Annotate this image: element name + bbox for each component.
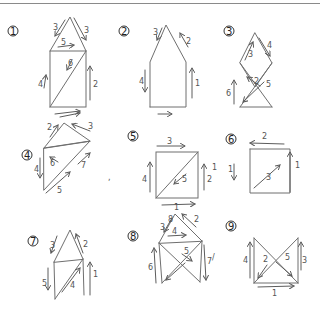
figure-number-3: 3 bbox=[226, 26, 232, 37]
figure-number-7: 7 bbox=[30, 236, 36, 247]
svg-text:1: 1 bbox=[195, 79, 200, 88]
figure-1: 1 3 3 5 6 4 2 bbox=[8, 17, 98, 114]
svg-text:5: 5 bbox=[184, 247, 189, 256]
svg-text:5: 5 bbox=[285, 253, 290, 262]
svg-text:8: 8 bbox=[168, 215, 173, 224]
figure-number-6: 6 bbox=[228, 134, 234, 145]
svg-text:4: 4 bbox=[139, 77, 144, 86]
svg-text:3: 3 bbox=[88, 122, 93, 131]
svg-text:4: 4 bbox=[142, 175, 147, 184]
svg-text:1: 1 bbox=[212, 163, 217, 172]
svg-text:2: 2 bbox=[262, 132, 267, 141]
svg-text:5: 5 bbox=[61, 38, 66, 47]
svg-text:3: 3 bbox=[302, 256, 307, 265]
svg-text:6: 6 bbox=[68, 59, 73, 68]
svg-text:2: 2 bbox=[263, 255, 268, 264]
svg-text:2: 2 bbox=[93, 80, 98, 89]
figure-5: 5 3 4 5 2 1 , bbox=[108, 131, 212, 212]
svg-text:6: 6 bbox=[226, 89, 231, 98]
svg-text:1: 1 bbox=[272, 289, 277, 298]
svg-text:2: 2 bbox=[194, 215, 199, 224]
svg-text:2: 2 bbox=[207, 175, 212, 184]
svg-text:7: 7 bbox=[81, 161, 86, 170]
svg-text:3: 3 bbox=[160, 223, 165, 232]
svg-text:3: 3 bbox=[84, 26, 89, 35]
figure-2: 2 3 2 4 1 bbox=[119, 25, 200, 114]
figure-4: 4 2 3 4 6 7 5 bbox=[22, 113, 93, 195]
svg-text:1: 1 bbox=[174, 203, 179, 212]
svg-text:5: 5 bbox=[42, 279, 47, 288]
figure-8: 8 3 2 4 5 6 7 8 bbox=[128, 214, 212, 283]
figure-number-8: 8 bbox=[130, 231, 136, 242]
figure-3: 3 3 4 2 5 6 bbox=[224, 26, 272, 107]
figure-number-2: 2 bbox=[121, 26, 127, 37]
figure-number-9: 9 bbox=[228, 221, 234, 232]
svg-text:2: 2 bbox=[186, 37, 191, 46]
svg-text:3: 3 bbox=[53, 23, 58, 32]
svg-text:3: 3 bbox=[266, 173, 271, 182]
svg-text:,: , bbox=[108, 173, 111, 182]
svg-text:/: / bbox=[212, 253, 215, 262]
figure-6: 6 2 1 3 1 1 bbox=[212, 132, 300, 193]
figure-9: 9 4 2 5 3 1 / bbox=[212, 221, 307, 298]
svg-text:4: 4 bbox=[243, 256, 248, 265]
svg-text:2: 2 bbox=[254, 77, 259, 86]
svg-text:6: 6 bbox=[50, 159, 55, 168]
svg-text:3: 3 bbox=[248, 50, 253, 59]
figure-number-1: 1 bbox=[10, 26, 16, 37]
figure-number-5: 5 bbox=[130, 131, 136, 142]
svg-text:5: 5 bbox=[266, 80, 271, 89]
svg-text:4: 4 bbox=[267, 41, 272, 50]
svg-text:3: 3 bbox=[50, 241, 55, 250]
svg-text:3: 3 bbox=[153, 28, 158, 37]
svg-text:5: 5 bbox=[57, 186, 62, 195]
svg-text:4: 4 bbox=[70, 281, 75, 290]
svg-text:2: 2 bbox=[47, 123, 52, 132]
svg-text:2: 2 bbox=[83, 240, 88, 249]
svg-text:5: 5 bbox=[182, 175, 187, 184]
diagram-canvas: 1 3 3 5 6 4 2 2 3 2 4 1 3 bbox=[0, 0, 320, 312]
svg-text:1: 1 bbox=[228, 165, 233, 174]
svg-text:1: 1 bbox=[295, 161, 300, 170]
figure-number-4: 4 bbox=[24, 150, 30, 161]
figure-7: 7 3 2 5 4 1 bbox=[28, 230, 98, 299]
svg-text:3: 3 bbox=[167, 137, 172, 146]
svg-text:4: 4 bbox=[34, 165, 39, 174]
svg-text:4: 4 bbox=[38, 80, 43, 89]
svg-text:6: 6 bbox=[148, 263, 153, 272]
svg-text:4: 4 bbox=[172, 227, 177, 236]
svg-text:1: 1 bbox=[93, 270, 98, 279]
